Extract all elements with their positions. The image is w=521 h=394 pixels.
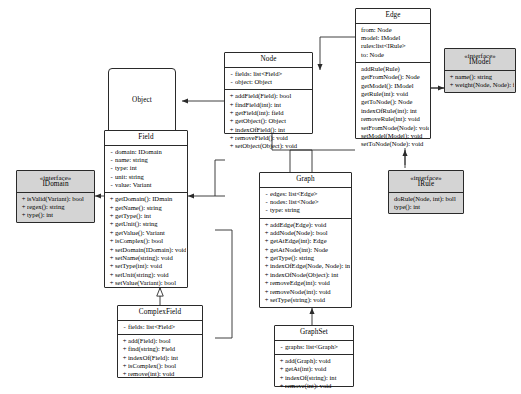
visibility-marker: + [108,254,115,262]
method-row: + remove(int): void [121,370,201,378]
method-row: addRule(Rule) [359,65,429,73]
member-signature: addEdge(Edge): void [270,221,350,229]
member-signature: rules:list<IRule> [359,42,429,50]
class-box-graph[interactable]: Graph - edges: list<Edge> - nodes: list<… [259,172,352,308]
member-signature: getUnit(): string [115,220,186,228]
visibility-marker: + [448,73,455,81]
visibility-marker: - [278,343,285,351]
class-box-object[interactable]: Object [108,68,176,134]
member-signature: isComplex(): bool [115,237,186,245]
member-signature: indexOfEdge(Node, Node): int [270,262,350,270]
visibility-marker: - [263,206,270,214]
methods-irule: doRule(Node, int): boll type(): int [389,192,463,215]
member-signature: getType(): int [115,212,186,220]
class-box-field[interactable]: Field - domain: IDomain - name: string -… [104,130,188,288]
member-signature: removeRule(int): void [359,115,429,123]
visibility-marker: + [108,246,115,254]
method-row: + addEdge(Edge): void [263,221,350,229]
member-signature: setType(int): void [115,262,186,270]
member-signature: setModel(Model): void [359,132,429,140]
class-title-object: Object [132,97,152,105]
methods-field: + getDomain(): IDmain + getName(): strin… [105,192,187,290]
visibility-marker: + [108,279,115,287]
method-row: getRule(int): void [359,90,429,98]
methods-complexfield: + add(Field): bool + find(string): Field… [118,334,202,382]
visibility-marker: + [263,271,270,279]
method-row: + setName(string): void [108,254,186,262]
member-signature: edges: list<Edge> [270,190,350,198]
method-row: + getName(): string [108,204,186,212]
member-signature: find(string): Field [128,345,201,353]
member-signature: indexOfNode(Object): int [270,271,350,279]
visibility-marker: + [108,229,115,237]
methods-node: + addField(Field): bool + findField(int)… [225,89,312,154]
visibility-marker: + [108,204,115,212]
member-signature: setObject(Object): void [235,142,311,150]
class-box-edge[interactable]: Edge from: Node model: IModel rules:list… [355,8,431,139]
member-signature: add(Field): bool [128,337,201,345]
method-row: + isComplex(): bool [121,362,201,370]
method-row: + setValue(Variant): bool [108,279,186,287]
member-signature: domain: IDomain [115,148,186,156]
member-signature: removeNode(int): void [270,288,350,296]
method-row: + add(Field): bool [121,337,201,345]
visibility-marker: + [278,374,285,382]
attribute-row: - fields: list<Field> [121,323,201,331]
class-box-complexfield[interactable]: ComplexField - fields: list<Field> + add… [117,305,203,378]
method-row: + getType(): string [263,254,350,262]
member-signature: nodes: list<Node> [270,198,350,206]
class-title-edge: Edge [356,9,430,23]
visibility-marker: + [263,221,270,229]
member-signature: setDomain(IDomain): void [115,246,186,254]
visibility-marker: - [108,164,115,172]
member-signature: getRule(int): void [359,90,429,98]
member-signature: doRule(Node, int): boll [392,195,462,203]
member-signature: indexOfField(): int [235,126,311,134]
visibility-marker: + [20,211,27,219]
class-name-field: Field [138,133,153,141]
visibility-marker: + [263,262,270,270]
visibility-marker: + [263,246,270,254]
class-name-graph: Graph [296,175,314,183]
member-signature: getModel(): IModel [359,82,429,90]
member-signature: from: Node [359,26,429,34]
methods-graphset: + add(Graph): void + getAt(int): void + … [275,354,353,393]
visibility-marker: + [108,212,115,220]
interface-title-irule: «interface» IRule [389,171,463,192]
interface-name-idomain: IDomain [42,180,68,188]
interface-name-imodel: IModel [469,58,491,66]
member-signature: getType(): string [270,254,350,262]
member-signature: getDomain(): IDmain [115,195,186,203]
member-signature: getAtNode(int): Node [270,246,350,254]
member-signature: type: string [270,206,350,214]
method-row: + setType(int): void [108,262,186,270]
member-signature: name(): string [455,73,514,81]
method-row: + addField(Field): bool [228,92,311,100]
attribute-row: - name: string [108,156,186,164]
visibility-marker: + [20,203,27,211]
class-box-node[interactable]: Node - fields: list<Field> - object: Obj… [224,52,313,134]
attribute-row: - fields: list<Field> [228,70,311,78]
visibility-marker: - [263,190,270,198]
methods-edge: addRule(Rule) getFromNode(): Node getMod… [356,62,430,152]
attributes-node: - fields: list<Field> - object: Object [225,67,312,90]
interface-box-irule[interactable]: «interface» IRule doRule(Node, int): bol… [388,170,464,214]
member-signature: setType(string): void [270,296,350,304]
member-signature: addNode(Node): bool [270,229,350,237]
class-name-graphset: GraphSet [300,328,328,336]
interface-box-imodel[interactable]: «interface» IModel + name(): string + we… [444,48,516,93]
method-row: getFromNode(): Node [359,73,429,81]
visibility-marker: + [121,345,128,353]
member-signature: indexOf(string): int [285,374,352,382]
interface-box-idomain[interactable]: «interface» IDomain + isValid(Variant): … [16,170,95,223]
visibility-marker: - [108,156,115,164]
method-row: + getField(int): field [228,109,311,117]
visibility-marker: - [108,173,115,181]
attribute-row: - domain: IDomain [108,148,186,156]
class-box-graphset[interactable]: GraphSet - graphs: list<Graph> + add(Gra… [274,325,354,387]
methods-idomain: + isValid(Variant): bool + regex(): stri… [17,192,94,223]
method-row: + indexOf(string): int [278,374,352,382]
method-row: + removeEdge(int): void [263,279,350,287]
visibility-marker: + [108,195,115,203]
visibility-marker: + [448,81,455,89]
